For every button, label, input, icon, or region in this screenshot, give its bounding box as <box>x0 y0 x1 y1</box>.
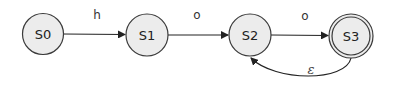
state-label-s3: S3 <box>343 29 360 44</box>
edge-label-o-2: o <box>301 9 308 23</box>
state-label-s2: S2 <box>242 28 259 43</box>
automaton-diagram: h o o ε S0 S1 S2 S3 <box>0 0 394 85</box>
state-label-s0: S0 <box>35 27 52 42</box>
state-s1: S1 <box>126 14 168 56</box>
edge-label-epsilon: ε <box>308 62 315 77</box>
state-label-s1: S1 <box>139 28 156 43</box>
edge-s1-s2: o <box>168 8 228 35</box>
edge-s2-s3: o <box>271 9 328 36</box>
edge-s3-s2: ε <box>251 58 351 77</box>
edge-label-h: h <box>93 8 101 22</box>
edge-label-o-1: o <box>193 8 200 22</box>
state-s0: S0 <box>23 14 64 55</box>
state-s2: S2 <box>229 14 271 56</box>
state-s3-accepting: S3 <box>329 14 373 58</box>
edge-s0-s1: h <box>63 8 125 35</box>
